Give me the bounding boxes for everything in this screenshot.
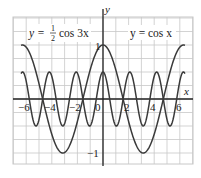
equation-label-cos-x: y = cos x (128, 25, 176, 40)
y-tick-label-neg: −1 (87, 147, 99, 159)
eq1-denominator: 2 (51, 34, 55, 43)
y-tick-label-pos: 1 (95, 40, 101, 52)
x-tick-label: −4 (44, 101, 56, 113)
y-axis-label: y (104, 3, 110, 15)
chart: x y −6 −4 −2 0 2 4 6 1 −1 y = 1 2 cos 3x… (0, 0, 201, 178)
eq1-prefix: y = (28, 27, 45, 40)
x-axis-label: x (183, 85, 189, 97)
eq2-text: y = cos x (130, 27, 172, 40)
x-tick-label: 0 (95, 101, 101, 113)
x-tick-label: 4 (150, 101, 156, 113)
x-tick-label: −6 (18, 101, 30, 113)
x-tick-label: 6 (176, 101, 182, 113)
eq1-suffix: cos 3x (59, 27, 89, 39)
eq1-numerator: 1 (51, 24, 55, 33)
x-tick-label: 2 (124, 101, 130, 113)
x-tick-label: −2 (69, 101, 81, 113)
equation-label-half-cos-3x: y = 1 2 cos 3x (27, 24, 91, 43)
